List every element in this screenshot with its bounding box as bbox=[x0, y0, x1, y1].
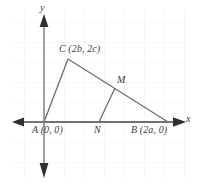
y-axis-label: y bbox=[40, 3, 45, 13]
x-axis-label: x bbox=[186, 114, 191, 124]
point-label-m: M bbox=[117, 75, 125, 85]
point-label-c: C (2b, 2c) bbox=[59, 44, 100, 54]
background-grid bbox=[12, 12, 186, 178]
geometry-figure: A (0, 0) C (2b, 2c) B (2a, 0) M N x y bbox=[0, 0, 198, 189]
point-label-a: A (0, 0) bbox=[32, 125, 63, 135]
point-label-n: N bbox=[94, 125, 101, 135]
point-label-b: B (2a, 0) bbox=[131, 125, 167, 135]
coordinate-plane-svg bbox=[0, 0, 198, 189]
